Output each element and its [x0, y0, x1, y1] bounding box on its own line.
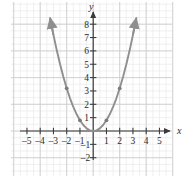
x-tick-label: 1: [104, 136, 109, 146]
x-tick-label: 3: [130, 136, 135, 146]
minor-gridlines: [11, 2, 173, 176]
x-tick-label: –5: [21, 136, 32, 146]
x-tick-label: –3: [47, 136, 58, 146]
y-axis-label: y: [88, 1, 94, 12]
y-tick-label: 8: [84, 20, 89, 30]
x-tick-label: 5: [157, 136, 162, 146]
major-gridlines: [11, 2, 173, 176]
y-tick-label: 5: [84, 60, 89, 70]
y-tick-label: 1: [84, 113, 89, 123]
x-tick-label: –4: [34, 136, 45, 146]
y-tick-label: 4: [84, 73, 89, 83]
x-axis-label: x: [176, 125, 182, 136]
y-tick-label: 7: [84, 33, 89, 43]
y-tick-label: –2: [80, 153, 91, 163]
x-tick-label: 2: [117, 136, 122, 146]
y-tick-label: 6: [84, 46, 89, 56]
y-tick-label: 2: [84, 100, 89, 110]
x-tick-label: –2: [61, 136, 72, 146]
graph-figure: –5–4–3–2–11234587654321–1–2 x y: [0, 0, 186, 176]
y-tick-label: 3: [84, 86, 89, 96]
y-tick-label: –1: [80, 140, 91, 150]
x-tick-label: 4: [144, 136, 149, 146]
coordinate-plane-svg: –5–4–3–2–11234587654321–1–2 x y: [0, 0, 186, 176]
